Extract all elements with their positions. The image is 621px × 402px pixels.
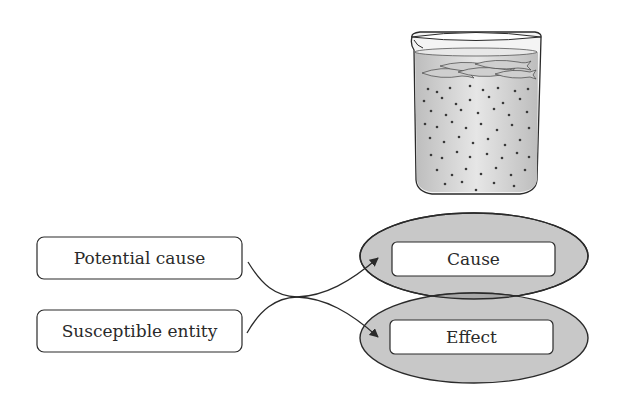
potential-cause-label: Potential cause <box>74 248 205 268</box>
susceptible-entity-node: Susceptible entity <box>37 310 242 352</box>
effect-label: Effect <box>446 327 497 347</box>
causal-diagram: Cause Effect Potential cause Susceptible… <box>0 0 621 402</box>
beaker-illustration <box>411 32 541 194</box>
potential-cause-node: Potential cause <box>37 237 242 279</box>
effect-node: Effect <box>390 320 553 354</box>
cause-node: Cause <box>392 242 555 276</box>
water-surface <box>415 48 537 56</box>
cause-label: Cause <box>447 249 500 269</box>
susceptible-entity-label: Susceptible entity <box>62 321 218 341</box>
